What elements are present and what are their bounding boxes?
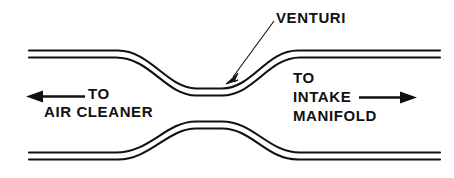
lower-duct-wall — [29, 122, 440, 160]
upper-wall-outer-line — [29, 51, 440, 89]
intake-label: INTAKE — [293, 89, 351, 104]
left-arrow-head — [26, 91, 43, 103]
venturi-label: VENTURI — [276, 10, 346, 25]
to-intake-manifold-to-label: TO — [293, 70, 315, 85]
to-air-cleaner-to-label: TO — [88, 86, 110, 101]
right-arrow-icon — [359, 92, 417, 104]
venturi-leader-line — [226, 21, 274, 84]
venturi-duct-drawing — [0, 0, 454, 178]
leader-line-stroke — [233, 21, 274, 77]
manifold-label: MANIFOLD — [293, 108, 377, 123]
air-cleaner-label: AIR CLEANER — [44, 104, 153, 119]
left-arrow-icon — [26, 91, 85, 103]
right-arrow-head — [400, 92, 417, 104]
venturi-diagram: VENTURI TO AIR CLEANER TO INTAKE MANIFOL… — [0, 0, 454, 178]
lower-wall-outer-line — [29, 129, 440, 160]
lower-wall-inner-line — [29, 122, 440, 153]
leader-arrow-icon — [226, 73, 238, 84]
